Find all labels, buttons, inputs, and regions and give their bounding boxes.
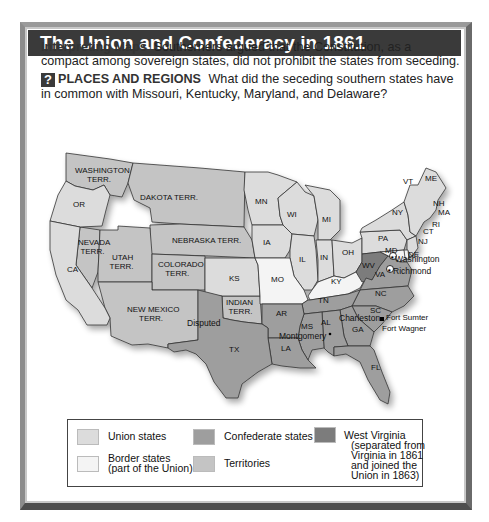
label-nebraska-terr: NEBRASKA TERR. bbox=[172, 236, 241, 245]
label-vt: VT bbox=[403, 177, 413, 186]
label-charleston: Charleston bbox=[339, 313, 380, 323]
label-nh: NH bbox=[433, 199, 445, 208]
label-disputed: Disputed bbox=[187, 318, 221, 328]
map-legend: Union states Border states (part of the … bbox=[67, 419, 423, 487]
label-ks: KS bbox=[229, 274, 240, 283]
legend-swatch-border bbox=[77, 456, 99, 472]
legend-swatch-west-virginia bbox=[314, 427, 336, 443]
montgomery-marker bbox=[329, 333, 332, 336]
label-dakota-terr: DAKOTA TERR. bbox=[140, 193, 198, 202]
label-me: ME bbox=[425, 174, 437, 183]
label-tn: TN bbox=[318, 296, 329, 305]
label-va: VA bbox=[375, 270, 386, 279]
label-ky: KY bbox=[331, 277, 342, 286]
label-in: IN bbox=[320, 253, 328, 262]
label-ca: CA bbox=[67, 265, 79, 274]
fort-sumter-marker bbox=[380, 317, 384, 321]
label-wv: WV bbox=[362, 261, 376, 270]
label-al: AL bbox=[321, 318, 331, 327]
label-wi: WI bbox=[287, 210, 297, 219]
label-fort-sumter: Fort Sumter bbox=[386, 313, 429, 322]
label-tx: TX bbox=[229, 345, 240, 354]
legend-swatch-confederate bbox=[193, 429, 215, 445]
label-mn: MN bbox=[255, 197, 268, 206]
label-washington: Washington bbox=[395, 254, 440, 264]
label-indian-terr: INDIANTERR. bbox=[226, 298, 253, 316]
legend-label-border-2: (part of the Union) bbox=[108, 463, 193, 474]
label-or: OR bbox=[73, 200, 85, 209]
legend-label-territory: Territories bbox=[224, 458, 270, 469]
region-florida bbox=[334, 346, 390, 404]
label-fl: FL bbox=[371, 363, 381, 372]
label-ma: MA bbox=[438, 208, 451, 217]
label-ms: MS bbox=[301, 322, 313, 331]
region-iowa bbox=[252, 225, 292, 258]
legend-label-wv-5: Union in 1863) bbox=[351, 470, 419, 481]
legend-label-confederate: Confederate states bbox=[224, 431, 313, 442]
label-utah-terr: UTAHTERR. bbox=[110, 253, 134, 271]
label-montgomery: Montgomery bbox=[279, 331, 327, 341]
label-nj: NJ bbox=[418, 237, 428, 246]
label-pa: PA bbox=[378, 234, 389, 243]
label-ny: NY bbox=[392, 208, 404, 217]
label-mo: MO bbox=[271, 275, 284, 284]
legend-label-union: Union states bbox=[108, 431, 166, 442]
label-oh: OH bbox=[342, 248, 354, 257]
label-fort-wagner: Fort Wagner bbox=[382, 324, 426, 333]
legend-swatch-territory bbox=[193, 456, 215, 472]
label-ct: CT bbox=[423, 227, 434, 236]
label-ga: GA bbox=[352, 325, 364, 334]
label-richmond: Richmond bbox=[393, 266, 432, 276]
label-ar: AR bbox=[276, 309, 287, 318]
label-nc: NC bbox=[375, 289, 387, 298]
legend-swatch-union bbox=[77, 429, 99, 445]
label-la: LA bbox=[281, 344, 291, 353]
label-mi: MI bbox=[322, 215, 331, 224]
label-ia: IA bbox=[263, 238, 271, 247]
label-il: IL bbox=[299, 255, 306, 264]
